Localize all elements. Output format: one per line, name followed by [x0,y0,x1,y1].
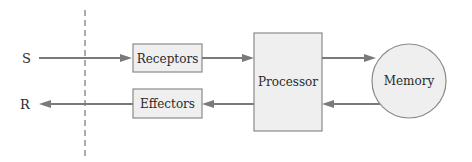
diagram-canvas: S R Receptors Effectors Processor [0,0,472,162]
memory-node: Memory [372,44,446,118]
response-label: R [20,97,31,112]
processor-node: Processor [254,33,322,131]
processor-to-effectors-arrow [202,100,254,108]
processor-label: Processor [258,75,318,89]
receptors-label: Receptors [137,52,199,66]
processor-to-memory-arrow [322,54,376,62]
effectors-label: Effectors [140,97,195,111]
effectors-node: Effectors [133,89,202,118]
memory-label: Memory [384,74,435,88]
stimulus-label: S [22,51,31,66]
memory-to-processor-arrow [322,100,380,108]
response-arrow [39,100,133,108]
receptors-to-processor-arrow [202,54,254,62]
receptors-node: Receptors [133,44,202,72]
